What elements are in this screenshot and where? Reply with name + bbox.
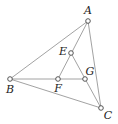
point-f-label: F bbox=[53, 82, 62, 95]
segment-ab bbox=[10, 21, 88, 79]
point-b-marker bbox=[8, 77, 13, 82]
labels-group: ABCEFG bbox=[5, 4, 113, 122]
point-a-label: A bbox=[83, 4, 92, 17]
geometry-diagram: ABCEFG bbox=[0, 0, 118, 124]
point-c-label: C bbox=[104, 109, 113, 122]
point-b-label: B bbox=[5, 83, 14, 96]
point-f-marker bbox=[56, 77, 61, 82]
point-e-marker bbox=[69, 51, 74, 56]
point-c-marker bbox=[99, 106, 104, 111]
point-e-label: E bbox=[58, 45, 67, 58]
point-a-marker bbox=[86, 19, 91, 24]
point-g-label: G bbox=[86, 65, 95, 78]
